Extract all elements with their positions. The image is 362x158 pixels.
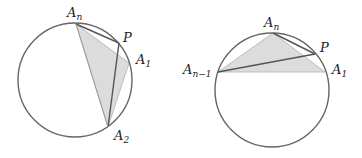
- left-shaded-triangle: [76, 24, 129, 127]
- left-label-an: An: [66, 5, 82, 22]
- right-shaded-triangle: [218, 33, 325, 72]
- right-figure: An P A1 An−1: [182, 15, 347, 147]
- right-label-an: An: [263, 15, 279, 32]
- left-label-p: P: [122, 30, 132, 45]
- diagram-canvas: An P A1 A2 An P A1 An−1: [0, 0, 362, 158]
- left-label-a1: A1: [135, 52, 151, 69]
- right-label-p: P: [319, 40, 329, 55]
- right-label-a1: A1: [331, 62, 347, 79]
- left-figure: An P A1 A2: [18, 5, 151, 145]
- left-label-a2: A2: [113, 128, 129, 145]
- right-label-an-1: An−1: [182, 62, 211, 79]
